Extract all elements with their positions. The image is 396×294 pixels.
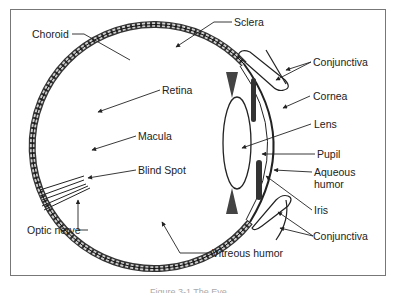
conjunctiva-bottom-shape bbox=[252, 196, 291, 230]
label-vitreous-humor: Vitreous humor bbox=[212, 247, 283, 259]
label-sclera: Sclera bbox=[234, 16, 264, 28]
label-optic-nerve: Optic nerve bbox=[27, 224, 81, 236]
label-cornea: Cornea bbox=[313, 90, 347, 102]
label-iris: Iris bbox=[314, 204, 328, 216]
label-lens: Lens bbox=[314, 118, 337, 130]
label-conjunctiva-top: Conjunctiva bbox=[313, 56, 368, 68]
label-retina: Retina bbox=[162, 84, 192, 96]
label-aqueous-humor-line1: Aqueous bbox=[314, 166, 355, 178]
label-blind-spot: Blind Spot bbox=[138, 164, 186, 176]
label-aqueous-humor-line2: humor bbox=[314, 178, 344, 190]
eye-diagram bbox=[0, 0, 396, 294]
figure-caption: Figure 3-1 The Eye bbox=[150, 287, 227, 294]
label-choroid: Choroid bbox=[32, 28, 69, 40]
label-pupil: Pupil bbox=[317, 148, 340, 160]
label-conjunctiva-bottom: Conjunctiva bbox=[313, 230, 368, 242]
label-macula: Macula bbox=[138, 130, 172, 142]
conjunctiva-top-shape bbox=[238, 51, 288, 91]
lens-shape bbox=[223, 97, 251, 189]
